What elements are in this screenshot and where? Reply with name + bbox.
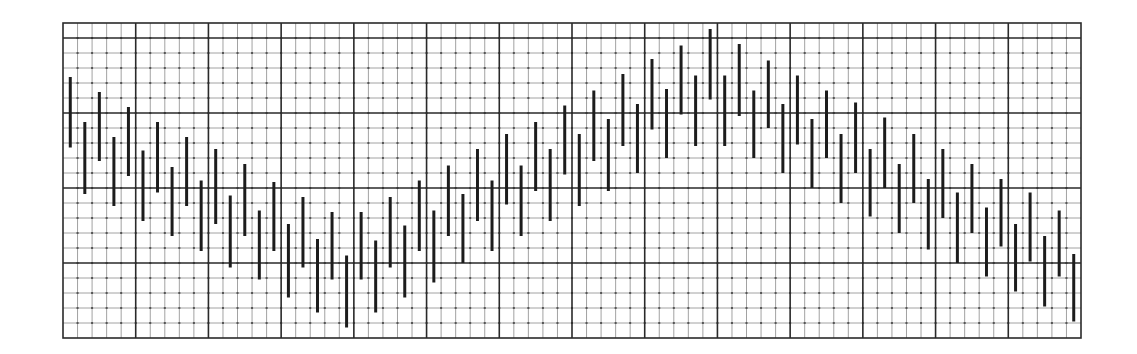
range-bar-chart [0, 0, 1137, 354]
chart-canvas [0, 0, 1137, 354]
